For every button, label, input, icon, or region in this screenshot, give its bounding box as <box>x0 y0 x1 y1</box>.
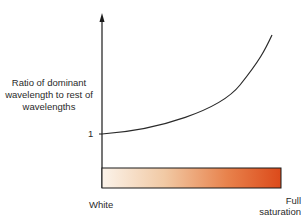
x-label-full-line2: saturation <box>245 206 301 217</box>
y-axis-arrow-icon <box>100 13 105 22</box>
saturation-color-bar <box>102 168 281 188</box>
x-label-white: White <box>89 199 113 210</box>
saturation-curve <box>102 35 272 134</box>
y-axis-label: Ratio of dominant wavelength to rest of … <box>4 77 94 113</box>
x-label-full-line1: Full <box>245 195 301 206</box>
x-label-full-saturation: Full saturation <box>245 195 301 217</box>
y-tick-label-1: 1 <box>88 128 93 139</box>
